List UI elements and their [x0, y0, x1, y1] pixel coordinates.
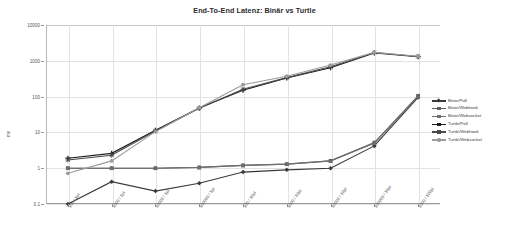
legend-swatch-icon [432, 137, 446, 143]
legend-item[interactable]: Turtle/Webhook [432, 128, 509, 136]
y-axis-tick-label: 100 [32, 94, 40, 99]
data-point-marker [65, 157, 70, 162]
data-point-marker [197, 181, 202, 186]
data-point-marker [329, 63, 333, 67]
y-axis-tick-mark [41, 204, 44, 205]
series-line [68, 96, 418, 168]
chart-container: End-To-End Latenz: Binär vs Turtle ms 10… [0, 0, 509, 244]
data-point-marker [66, 171, 70, 175]
data-point-marker [285, 74, 289, 78]
legend-label: Turtle/Poll [448, 122, 468, 126]
series-line [68, 52, 418, 173]
legend-label: Turtle/Webhook [448, 130, 479, 134]
legend-label: Turtle/Websocket [448, 138, 482, 142]
series-bin-r-webhook [66, 94, 420, 170]
y-axis-tick-mark [41, 25, 44, 26]
data-point-marker [328, 166, 333, 171]
data-point-marker [109, 179, 114, 184]
data-point-marker [197, 106, 201, 110]
x-axis: 100 / 1pt1000 / 1pt10000 / 1pt100000 / 1… [46, 204, 440, 244]
legend-item[interactable]: Binär/Poll [432, 97, 509, 105]
y-axis-tick-mark [41, 132, 44, 133]
legend-item[interactable]: Binär/Websocket [432, 113, 509, 121]
series-bin-r-websocket [66, 94, 421, 170]
legend-label: Binär/Websocket [448, 114, 481, 118]
y-axis: ms 1000010001001010.1 [0, 25, 44, 204]
y-axis-tick-label: 1 [37, 166, 40, 171]
data-point-marker [154, 130, 158, 134]
y-axis-tick-label: 10000 [27, 23, 40, 28]
legend-label: Binär/Poll [448, 99, 467, 103]
y-axis-tick-label: 1000 [30, 58, 40, 63]
data-point-marker [241, 170, 246, 175]
legend-swatch-icon [432, 106, 446, 112]
legend-swatch-icon [432, 129, 446, 135]
y-axis-title: ms [6, 131, 11, 137]
y-axis-tick-label: 0.1 [34, 202, 40, 207]
legend-label: Binär/Webhook [448, 106, 478, 110]
series-line [68, 53, 418, 160]
legend-swatch-icon [432, 98, 446, 104]
data-point-marker [110, 159, 114, 163]
legend-item[interactable]: Turtle/Websocket [432, 136, 509, 144]
legend-item[interactable]: Turtle/Poll [432, 120, 509, 128]
chart-title: End-To-End Latenz: Binär vs Turtle [0, 6, 509, 15]
data-point-marker [241, 87, 246, 92]
series-line [68, 96, 418, 168]
legend-swatch-icon [432, 113, 446, 119]
data-point-marker [153, 189, 158, 194]
y-axis-tick-mark [41, 97, 44, 98]
data-point-marker [241, 83, 245, 87]
y-axis-tick-label: 10 [35, 130, 40, 135]
data-point-marker [416, 54, 420, 58]
data-point-marker [284, 168, 289, 173]
series-line [68, 53, 418, 158]
data-point-marker [372, 50, 376, 54]
y-axis-tick-mark [41, 168, 44, 169]
series-turtle-poll [65, 51, 420, 161]
series-turtle-websocket [66, 50, 420, 175]
legend-item[interactable]: Binär/Webhook [432, 105, 509, 113]
data-point-marker [109, 153, 114, 158]
legend-swatch-icon [432, 121, 446, 127]
series-layer [46, 25, 440, 204]
chart-legend: Binär/PollBinär/WebhookBinär/WebsocketTu… [432, 97, 509, 144]
y-axis-tick-mark [41, 61, 44, 62]
